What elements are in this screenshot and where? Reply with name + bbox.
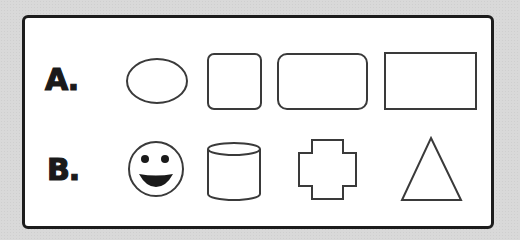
- rectangle-icon: [385, 53, 476, 109]
- rounded-rectangle-icon: [278, 54, 367, 109]
- triangle-icon: [402, 138, 461, 200]
- cylinder-icon: [208, 143, 260, 200]
- rounded-square-icon: [208, 54, 261, 109]
- smiley-face-icon: [129, 142, 183, 196]
- cross-icon: [299, 140, 356, 199]
- shapes-canvas: [0, 0, 520, 240]
- ellipse-icon: [127, 59, 187, 103]
